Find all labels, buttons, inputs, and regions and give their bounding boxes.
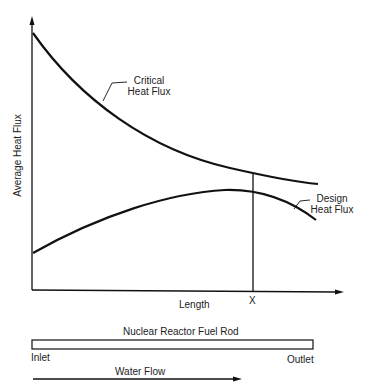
critical-leader xyxy=(103,82,127,101)
design-label-1: Design xyxy=(313,193,351,204)
critical-label-2: Heat Flux xyxy=(127,86,171,97)
water-flow-label: Water Flow xyxy=(115,366,165,377)
design-label-2: Heat Flux xyxy=(308,204,356,215)
y-axis-arrow-icon xyxy=(30,16,35,25)
fuel-rod xyxy=(32,340,313,349)
inlet-label: Inlet xyxy=(31,352,50,363)
critical-label-1: Critical xyxy=(132,75,166,86)
outlet-label: Outlet xyxy=(287,354,314,365)
water-flow-arrow-icon xyxy=(233,377,242,382)
x-axis-label: Length xyxy=(179,299,210,310)
design-heat-flux-curve xyxy=(33,190,316,253)
x-axis xyxy=(32,290,337,292)
critical-heat-flux-curve xyxy=(33,33,318,184)
x-axis-arrow-icon xyxy=(335,290,344,295)
fuel-rod-title: Nuclear Reactor Fuel Rod xyxy=(123,326,239,337)
y-axis-label: Average Heat Flux xyxy=(12,101,23,211)
x-marker-label: X xyxy=(249,295,256,306)
